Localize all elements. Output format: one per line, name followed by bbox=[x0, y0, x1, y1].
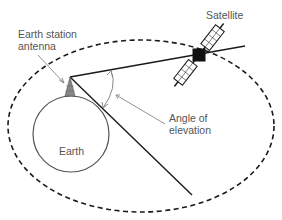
earth-label: Earth bbox=[59, 145, 84, 157]
solar-panel-upper bbox=[201, 25, 224, 51]
angle-label-line2: elevation bbox=[169, 124, 211, 136]
elevation-angle-arc bbox=[102, 71, 113, 108]
satellite-icon bbox=[167, 18, 231, 92]
line-of-sight bbox=[70, 46, 245, 77]
antenna-label-line1: Earth station bbox=[18, 28, 77, 40]
angle-label-line1: Angle of bbox=[169, 112, 208, 124]
angle-leader bbox=[116, 95, 165, 124]
solar-panel-lower bbox=[174, 59, 197, 85]
satellite-label: Satellite bbox=[206, 9, 244, 21]
elevation-angle-diagram: Satellite Earth station antenna Earth An… bbox=[0, 0, 282, 220]
antenna-label-line2: antenna bbox=[18, 40, 56, 52]
earth-circle bbox=[33, 96, 109, 172]
